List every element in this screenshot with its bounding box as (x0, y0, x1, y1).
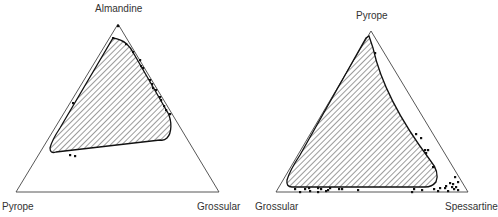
data-point (449, 182, 451, 184)
data-point (444, 187, 446, 189)
data-point (425, 152, 427, 154)
data-point (454, 176, 456, 178)
label-pyrope-left: Pyrope (2, 201, 34, 212)
data-point (72, 102, 74, 104)
ternary-left (16, 24, 219, 192)
hatched-field (50, 38, 171, 153)
data-point (304, 188, 306, 190)
ternary-right (276, 31, 468, 193)
data-point (132, 51, 134, 53)
data-point (341, 188, 343, 190)
data-point (455, 186, 457, 188)
data-point (165, 109, 167, 111)
data-point (327, 189, 329, 191)
data-point (427, 149, 429, 151)
data-point (411, 191, 413, 193)
data-point (163, 105, 165, 107)
data-point (415, 133, 417, 135)
data-point (142, 67, 144, 69)
data-point (309, 190, 311, 192)
data-point (112, 37, 114, 39)
data-point (155, 89, 157, 91)
data-point (317, 187, 319, 189)
data-point (299, 191, 301, 193)
label-pyrope-right: Pyrope (356, 10, 388, 21)
data-point (151, 83, 153, 85)
data-point (457, 189, 459, 191)
ternary-diagrams (0, 0, 498, 217)
data-point (74, 155, 76, 157)
data-point (357, 189, 359, 191)
data-point (447, 190, 449, 192)
data-point (413, 188, 415, 190)
data-point (125, 43, 127, 45)
data-point (420, 137, 422, 139)
data-point (160, 99, 162, 101)
data-point (329, 187, 331, 189)
data-point (432, 166, 434, 168)
data-point (424, 149, 426, 151)
label-grossular-right: Grossular (255, 201, 298, 212)
data-point (159, 96, 161, 98)
data-point (317, 191, 319, 193)
data-point (433, 188, 435, 190)
hatched-field (287, 36, 437, 187)
data-point (374, 52, 376, 54)
data-point (445, 185, 447, 187)
label-grossular-left: Grossular (197, 201, 240, 212)
data-point (320, 188, 322, 190)
data-point (437, 190, 439, 192)
data-point (152, 87, 154, 89)
data-point (421, 189, 423, 191)
data-point (457, 181, 459, 183)
label-spessartine: Spessartine (445, 201, 498, 212)
data-point (69, 154, 71, 156)
data-point (169, 113, 171, 115)
data-point (140, 65, 142, 67)
data-point (451, 186, 453, 188)
data-point (452, 183, 454, 185)
data-point (117, 25, 119, 27)
data-point (338, 188, 340, 190)
data-point (149, 79, 151, 81)
data-point (453, 188, 455, 190)
data-point (325, 190, 327, 192)
data-point (439, 187, 441, 189)
data-point (139, 59, 141, 61)
label-almandine: Almandine (95, 3, 142, 14)
data-point (294, 188, 296, 190)
data-point (308, 187, 310, 189)
